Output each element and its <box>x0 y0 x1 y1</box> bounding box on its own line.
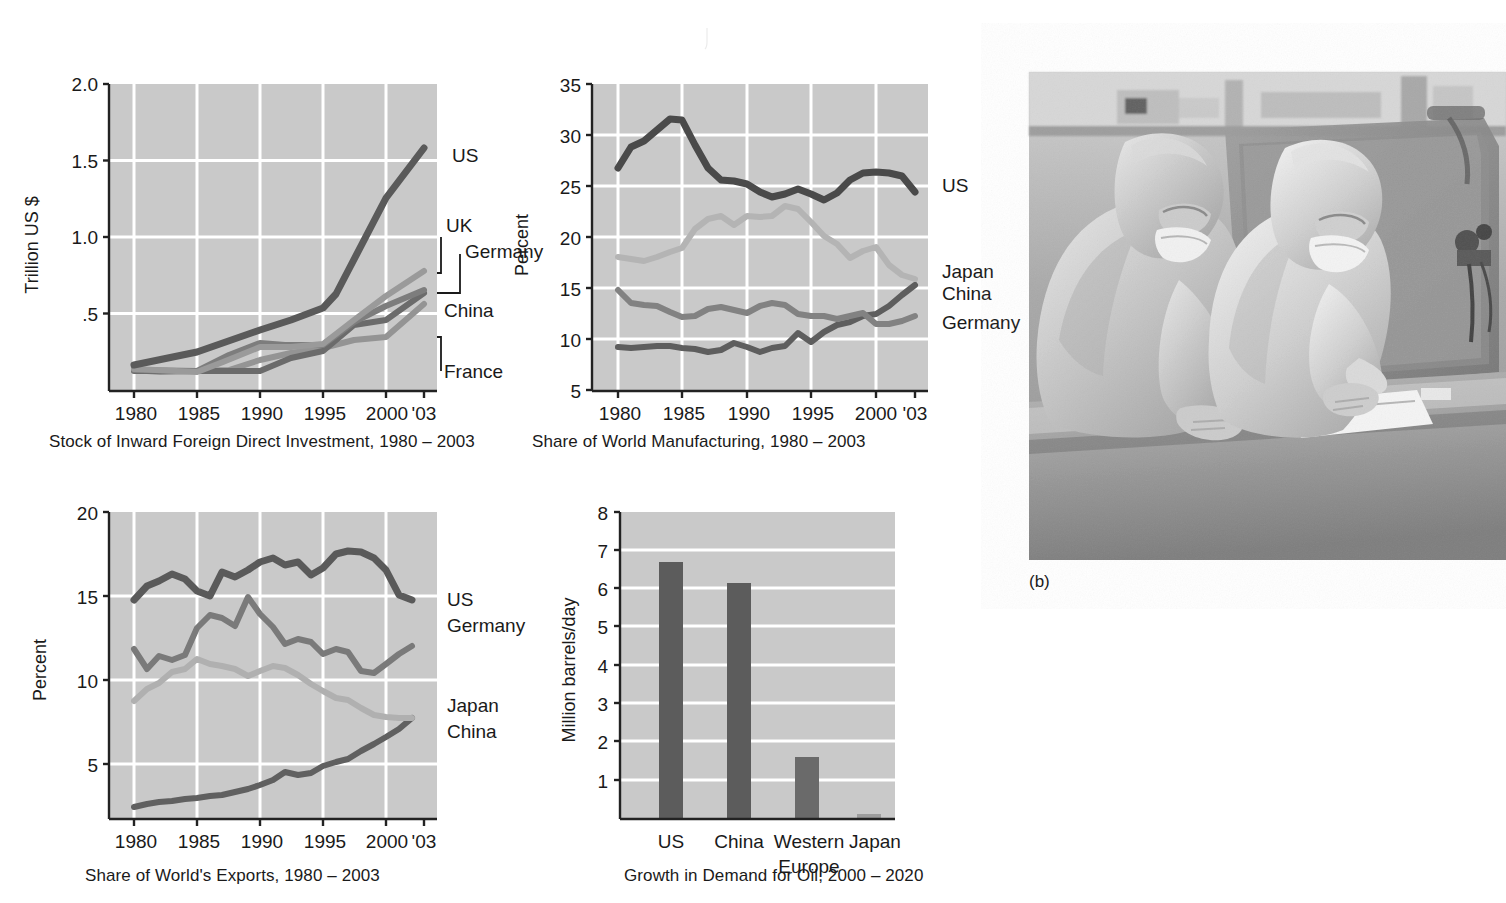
y-tick-labels: 2.0 1.5 1.0 .5 <box>72 74 98 325</box>
y-tick-labels: 20 15 10 5 <box>77 503 98 776</box>
y-tick: 20 <box>560 228 581 249</box>
series-label-us: US <box>452 145 478 166</box>
x-tick: 1990 <box>241 831 283 852</box>
y-tick: 5 <box>87 755 98 776</box>
y-tick: 1 <box>597 771 608 792</box>
x-category-japan: Japan <box>849 831 901 852</box>
y-tick: 1.5 <box>72 151 98 172</box>
photo-panel-label: (b) <box>1029 572 1050 592</box>
y-tick: 1.0 <box>72 227 98 248</box>
y-tick: 15 <box>77 587 98 608</box>
x-tick: 1980 <box>115 831 157 852</box>
y-tick: 3 <box>597 694 608 715</box>
x-tick: '03 <box>412 831 437 852</box>
cleanroom-photo-image <box>1029 72 1506 560</box>
x-category-western-europe-line1: Western <box>774 831 844 852</box>
y-tick: 15 <box>560 279 581 300</box>
series-label-us: US <box>942 175 968 196</box>
y-axis-label: Million barrels/day <box>559 597 579 742</box>
caption-world-exports: Share of World's Exports, 1980 – 2003 <box>85 866 380 886</box>
x-category-us: US <box>658 831 684 852</box>
bar-japan <box>857 814 881 818</box>
series-label-germany: Germany <box>447 615 526 636</box>
bar-china <box>727 583 751 818</box>
bar-us <box>659 562 683 818</box>
y-axis-label: Trillion US $ <box>22 196 42 293</box>
y-tick: 10 <box>560 330 581 351</box>
x-tick-labels: 1980 1985 1990 1995 2000 '03 <box>115 831 437 852</box>
y-tick: 8 <box>597 503 608 524</box>
y-tick: 6 <box>597 579 608 600</box>
series-label-japan: Japan <box>447 695 499 716</box>
cleanroom-photo <box>1029 72 1506 560</box>
inward-fdi-chart: 2.0 1.5 1.0 .5 Trillion US $ 1980 1985 1… <box>0 0 520 470</box>
y-tick-labels: 8 7 6 5 4 3 2 1 <box>597 503 608 792</box>
y-tick: 2.0 <box>72 74 98 95</box>
y-tick: 10 <box>77 671 98 692</box>
y-tick: 30 <box>560 126 581 147</box>
x-tick: 1995 <box>304 831 346 852</box>
series-label-uk: UK <box>446 215 473 236</box>
y-tick: 35 <box>560 75 581 96</box>
series-labels: US Germany Japan China <box>447 589 526 742</box>
x-tick: 1985 <box>178 831 220 852</box>
bar-western-europe <box>795 757 819 818</box>
series-label-japan: Japan <box>942 261 994 282</box>
chart-panel-world-exports: 20 15 10 5 Percent 1980 1985 1990 1995 2… <box>0 420 520 890</box>
y-tick: 20 <box>77 503 98 524</box>
y-tick: 5 <box>597 617 608 638</box>
y-tick: 5 <box>570 381 581 402</box>
series-labels: US Japan China Germany <box>942 175 1021 333</box>
world-exports-chart: 20 15 10 5 Percent 1980 1985 1990 1995 2… <box>0 420 520 890</box>
series-label-china: China <box>942 283 992 304</box>
y-tick-labels: 35 30 25 20 15 10 5 <box>560 75 581 402</box>
chart-panel-world-manufacturing: 35 30 25 20 15 10 5 Percent 1980 1985 19… <box>480 0 1000 470</box>
y-tick: 7 <box>597 541 608 562</box>
y-tick: 25 <box>560 177 581 198</box>
world-manufacturing-chart: 35 30 25 20 15 10 5 Percent 1980 1985 19… <box>480 0 1000 470</box>
chart-panel-oil-demand: 8 7 6 5 4 3 2 1 Million barrels/day US C… <box>545 420 1005 890</box>
series-label-us: US <box>447 589 473 610</box>
y-axis-label: Percent <box>30 639 50 701</box>
series-label-china: China <box>447 721 497 742</box>
y-tick: 2 <box>597 732 608 753</box>
y-tick: 4 <box>597 656 608 677</box>
oil-demand-chart: 8 7 6 5 4 3 2 1 Million barrels/day US C… <box>545 420 1005 890</box>
y-axis-label: Percent <box>512 214 532 276</box>
chart-panel-inward-fdi: 2.0 1.5 1.0 .5 Trillion US $ 1980 1985 1… <box>0 0 520 470</box>
x-tick: 2000 <box>366 831 408 852</box>
series-label-germany: Germany <box>942 312 1021 333</box>
y-tick: .5 <box>82 304 98 325</box>
x-category-china: China <box>714 831 764 852</box>
caption-oil-demand: Growth in Demand for Oil, 2000 – 2020 <box>624 866 923 886</box>
